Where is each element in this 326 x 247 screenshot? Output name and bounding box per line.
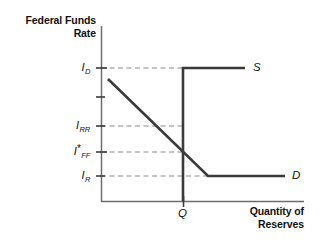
demand-curve — [108, 79, 285, 176]
y-tick-label-required-reserves-rate: IRR — [40, 119, 90, 131]
rate-subscript-federal-funds: FF — [81, 151, 90, 160]
x-axis-title: Quantity of Reserves — [208, 205, 304, 230]
supply-curve-label: S — [253, 61, 261, 73]
y-tick-label-interest-on-reserves-rate: IR — [40, 169, 90, 181]
demand-curve-label: D — [292, 169, 300, 181]
x-tick-label-quantity: Q — [178, 207, 187, 219]
y-tick-label-equilibrium-ff-rate: I*FF — [40, 145, 90, 157]
federal-funds-rate-diagram: Federal Funds Rate Quantity of Reserves … — [0, 0, 326, 247]
y-tick-label-discount-rate: ID — [40, 61, 90, 73]
rate-subscript-required: RR — [79, 125, 90, 134]
supply-curve — [183, 68, 245, 201]
guide-lines — [101, 68, 210, 176]
rate-subscript-reserves: R — [85, 175, 90, 184]
y-axis-title: Federal Funds Rate — [8, 14, 96, 39]
rate-subscript-discount: D — [85, 67, 90, 76]
